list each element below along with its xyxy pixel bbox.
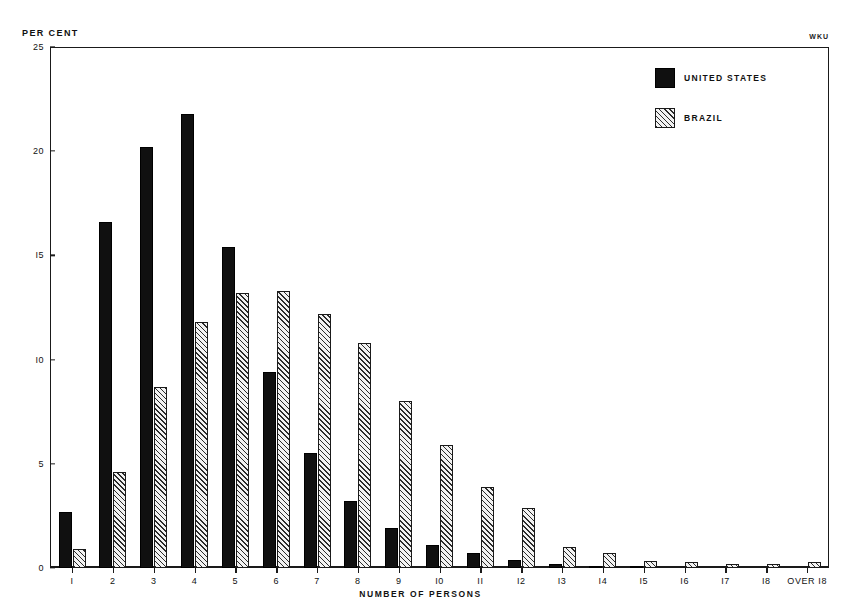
bar-brazil <box>563 547 576 568</box>
bar-brazil <box>685 562 698 568</box>
legend-swatch-hatch-icon <box>655 108 675 128</box>
x-axis-tick-label: 4 <box>192 576 198 586</box>
bar-group <box>222 47 249 568</box>
x-axis-tick-mark <box>317 568 318 573</box>
x-axis-tick-mark <box>195 568 196 573</box>
bar-united-states <box>263 372 276 568</box>
corner-mark-label: WKU <box>809 33 829 40</box>
legend-label-united-states: UNITED STATES <box>684 73 767 83</box>
x-axis-tick-label: 3 <box>151 576 157 586</box>
y-axis-tick-label: 25 <box>0 42 50 52</box>
bar-united-states <box>344 501 357 568</box>
x-axis-tick-label: I2 <box>517 576 526 586</box>
x-axis-tick-mark <box>766 568 767 573</box>
bar-group <box>467 47 494 568</box>
bar-group <box>630 47 657 568</box>
bar-group <box>59 47 86 568</box>
bar-united-states <box>99 222 112 568</box>
bar-group <box>385 47 412 568</box>
y-axis-tick-label: I5 <box>0 250 50 260</box>
bar-group <box>589 47 616 568</box>
bar-brazil <box>522 508 535 568</box>
bar-united-states <box>549 564 562 568</box>
bar-brazil <box>767 564 780 568</box>
y-axis-tick-label: 0 <box>0 563 50 573</box>
y-axis-title: PER CENT <box>22 28 79 38</box>
bar-brazil <box>358 343 371 568</box>
bar-brazil <box>726 564 739 568</box>
bar-group <box>344 47 371 568</box>
bar-united-states <box>59 512 72 568</box>
x-axis-tick-label: 5 <box>233 576 239 586</box>
x-axis-tick-label: I3 <box>558 576 567 586</box>
bar-brazil <box>154 387 167 568</box>
x-axis-tick-label: I5 <box>639 576 648 586</box>
bar-group <box>794 47 821 568</box>
bar-united-states <box>589 566 602 568</box>
x-axis-tick-mark <box>276 568 277 573</box>
x-axis-tick-label: I <box>70 576 73 586</box>
bar-group <box>508 47 535 568</box>
legend-item-brazil: BRAZIL <box>655 108 767 128</box>
bar-united-states <box>181 114 194 568</box>
x-axis-tick-mark <box>685 568 686 573</box>
x-axis-tick-label: 2 <box>110 576 116 586</box>
x-axis-tick-mark <box>72 568 73 573</box>
bar-group <box>304 47 331 568</box>
bar-group <box>426 47 453 568</box>
bar-brazil <box>644 561 657 568</box>
x-axis-tick-label: I4 <box>599 576 608 586</box>
bar-brazil <box>113 472 126 568</box>
bar-united-states <box>304 453 317 568</box>
bar-brazil <box>603 553 616 568</box>
x-axis-tick-mark <box>358 568 359 573</box>
x-axis-tick-mark <box>521 568 522 573</box>
bar-brazil <box>277 291 290 568</box>
x-axis-tick-mark <box>235 568 236 573</box>
legend-label-brazil: BRAZIL <box>684 113 723 123</box>
bar-united-states <box>630 566 643 568</box>
bar-brazil <box>440 445 453 568</box>
x-axis-tick-mark <box>440 568 441 573</box>
x-axis-tick-mark <box>562 568 563 573</box>
bar-united-states <box>222 247 235 568</box>
x-axis-tick-mark <box>807 568 808 573</box>
x-axis-tick-mark <box>644 568 645 573</box>
x-axis-tick-label: 6 <box>273 576 279 586</box>
x-axis-tick-mark <box>154 568 155 573</box>
bar-united-states <box>140 147 153 568</box>
chart-legend: UNITED STATES BRAZIL <box>655 68 767 148</box>
legend-item-united-states: UNITED STATES <box>655 68 767 88</box>
chart-figure: PER CENT WKU 05I0I52025 I23456789I0III2I… <box>0 0 841 612</box>
bar-group <box>140 47 167 568</box>
bar-group <box>263 47 290 568</box>
bar-group <box>181 47 208 568</box>
x-axis-tick-mark <box>399 568 400 573</box>
bar-united-states <box>426 545 439 568</box>
x-axis-tick-label: I7 <box>721 576 730 586</box>
bar-brazil <box>73 549 86 568</box>
x-axis-tick-mark <box>113 568 114 573</box>
bar-united-states <box>508 560 521 568</box>
x-axis-tick-label: II <box>477 576 483 586</box>
bar-brazil <box>481 487 494 568</box>
x-axis-tick-label: I0 <box>435 576 444 586</box>
x-axis-title: NUMBER OF PERSONS <box>0 589 841 599</box>
bar-brazil <box>236 293 249 568</box>
y-axis-tick-label: 5 <box>0 459 50 469</box>
legend-swatch-solid-icon <box>655 68 675 88</box>
x-axis-tick-label: 9 <box>396 576 402 586</box>
x-axis-tick-mark <box>480 568 481 573</box>
y-axis-tick-label: 20 <box>0 146 50 156</box>
y-axis-tick-label: I0 <box>0 355 50 365</box>
bar-brazil <box>808 562 821 568</box>
bar-brazil <box>195 322 208 568</box>
x-axis-tick-label: 8 <box>355 576 361 586</box>
x-axis-tick-mark <box>725 568 726 573</box>
bar-group <box>99 47 126 568</box>
x-axis-tick-label: I8 <box>762 576 771 586</box>
bar-group <box>549 47 576 568</box>
x-axis-tick-label: 7 <box>314 576 320 586</box>
bar-brazil <box>318 314 331 568</box>
x-axis-tick-label: I6 <box>680 576 689 586</box>
